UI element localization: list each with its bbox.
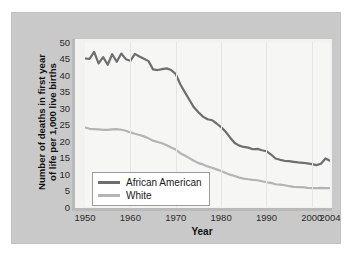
legend-swatch-white [98, 194, 120, 197]
x-tick-label: 1980 [211, 212, 232, 223]
grid-line [312, 42, 313, 207]
y-tick-label: 45 [44, 54, 70, 63]
x-tick-label: 1970 [165, 212, 186, 223]
x-axis-title: Year [72, 226, 332, 237]
grid-line [221, 42, 222, 207]
grid-line [266, 42, 267, 207]
legend-swatch-african-american [98, 181, 120, 184]
y-tick-label: 30 [44, 104, 70, 113]
y-tick-label: 15 [44, 153, 70, 162]
y-tick-label: 35 [44, 87, 70, 96]
y-tick-label: 20 [44, 137, 70, 146]
y-tick-label: 0 [44, 203, 70, 212]
y-tick-label: 10 [44, 170, 70, 179]
y-tick-label: 50 [44, 38, 70, 47]
legend-item-african-american: African American [98, 176, 202, 189]
y-tick-label: 25 [44, 120, 70, 129]
chart-legend: African American White [92, 172, 210, 206]
chart-panel: Number of deaths in first year of life p… [12, 13, 340, 243]
legend-label-african-american: African American [126, 177, 202, 188]
figure: Number of deaths in first year of life p… [0, 0, 351, 260]
x-tick-label: 1960 [120, 212, 141, 223]
x-tick-label: 1990 [256, 212, 277, 223]
y-axis-ticks: 05101520253035404550 [44, 13, 70, 243]
y-tick-label: 40 [44, 71, 70, 80]
legend-label-white: White [126, 190, 152, 201]
x-tick-label: 1950 [74, 212, 95, 223]
x-tick-label: 2004 [319, 212, 340, 223]
legend-item-white: White [98, 189, 202, 202]
series-line [85, 52, 330, 165]
y-tick-label: 5 [44, 186, 70, 195]
